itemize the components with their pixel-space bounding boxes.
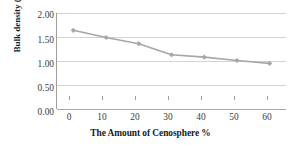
y-tick-label-3: 1.50 bbox=[22, 36, 54, 45]
plot-area bbox=[56, 13, 286, 109]
x-tickmark-50 bbox=[234, 96, 235, 100]
y-tick-label-4: 2.00 bbox=[22, 11, 54, 20]
x-tick-label-0: 0 bbox=[55, 113, 83, 122]
y-tick-label-1: 0.50 bbox=[22, 84, 54, 93]
y-tick-label-2: 1.00 bbox=[22, 60, 54, 69]
data-series-line bbox=[57, 13, 286, 109]
x-tickmark-60 bbox=[267, 96, 268, 100]
data-point-marker bbox=[267, 61, 272, 66]
x-axis-label: The Amount of Cenosphere % bbox=[0, 128, 301, 138]
data-point-marker bbox=[169, 52, 174, 57]
x-tick-label-2: 20 bbox=[121, 113, 149, 122]
data-point-marker bbox=[136, 41, 141, 46]
axis-line-x bbox=[57, 109, 286, 110]
y-tick-label-0: 0.00 bbox=[22, 108, 54, 117]
data-point-marker bbox=[202, 55, 207, 60]
x-tick-label-4: 40 bbox=[187, 113, 215, 122]
x-tickmark-20 bbox=[135, 96, 136, 100]
x-tick-label-3: 30 bbox=[154, 113, 182, 122]
x-tick-label-1: 10 bbox=[88, 113, 116, 122]
data-point-marker bbox=[103, 35, 108, 40]
x-tickmark-40 bbox=[201, 96, 202, 100]
series-line-bulk-density bbox=[73, 30, 269, 63]
chart-figure: Bulk density (g/cc) 0.00 0.50 1.00 1.50 … bbox=[0, 0, 301, 149]
data-point-marker bbox=[234, 58, 239, 63]
x-tick-label-5: 50 bbox=[220, 113, 248, 122]
x-tickmark-30 bbox=[168, 96, 169, 100]
x-tickmark-0 bbox=[69, 96, 70, 100]
x-tickmark-10 bbox=[102, 96, 103, 100]
data-point-marker bbox=[71, 28, 76, 33]
x-tick-label-6: 60 bbox=[253, 113, 281, 122]
